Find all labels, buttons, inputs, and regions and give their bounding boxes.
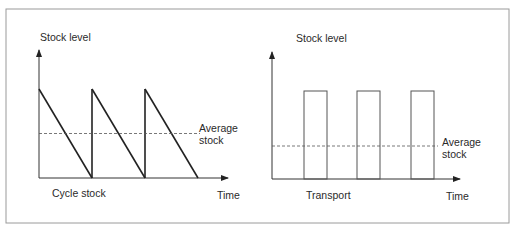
right-y-label: Stock level [296, 32, 347, 44]
diagram-canvas: Stock level Cycle stock Time Average sto… [0, 0, 514, 230]
right-x-label: Time [446, 190, 469, 202]
transport-pulse [357, 91, 380, 179]
left-average-label-2: stock [199, 134, 224, 146]
left-chart-title: Cycle stock [52, 187, 106, 199]
right-average-label-1: Average [442, 136, 481, 148]
right-chart-title: Transport [306, 189, 351, 201]
pulse-series [304, 91, 434, 179]
transport-pulse [411, 91, 434, 179]
right-average-label-2: stock [442, 148, 467, 160]
cycle-stock-panel: Stock level Cycle stock Time Average sto… [39, 31, 240, 201]
transport-panel: Stock level Transport Time Average stock [272, 32, 481, 202]
left-average-label-1: Average [199, 122, 238, 134]
transport-pulse [304, 91, 327, 179]
left-y-label: Stock level [40, 31, 91, 43]
left-x-label: Time [217, 189, 240, 201]
